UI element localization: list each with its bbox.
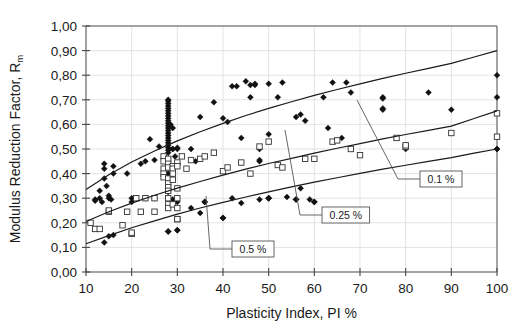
y-tick-label: 0,10 [51, 240, 77, 255]
data-point-diamond [320, 94, 326, 100]
y-tick-label: 0,90 [51, 44, 77, 59]
x-tick-label: 100 [486, 281, 509, 296]
y-tick-label: 0,70 [51, 93, 77, 108]
data-point-diamond [238, 135, 244, 141]
data-point-diamond [101, 161, 107, 167]
callout-label: 0.1 % [428, 173, 455, 185]
trend-curves-group [86, 51, 497, 244]
data-point-square [357, 152, 362, 157]
data-point-diamond [343, 80, 349, 86]
data-point-square [97, 226, 102, 231]
callout-leader-line [357, 100, 420, 179]
data-point-square [225, 165, 230, 170]
data-point-diamond [165, 228, 171, 234]
data-point-diamond [152, 157, 158, 163]
y-tick-label: 0,20 [51, 216, 77, 231]
data-point-diamond [293, 196, 299, 202]
data-point-diamond [147, 136, 153, 142]
data-point-square [175, 205, 180, 210]
x-tick-label: 60 [307, 281, 322, 296]
data-point-square [179, 154, 184, 159]
data-point-diamond [330, 80, 336, 86]
data-point-diamond [298, 185, 304, 191]
data-point-square [280, 165, 285, 170]
data-point-diamond [124, 171, 130, 177]
data-point-square [184, 166, 189, 171]
data-points-group [88, 72, 500, 245]
data-point-diamond [448, 107, 454, 113]
x-tick-label: 70 [352, 281, 367, 296]
x-tick-label: 40 [215, 281, 230, 296]
data-point-diamond [211, 99, 217, 105]
data-point-diamond [247, 94, 253, 100]
data-point-diamond [104, 183, 110, 189]
x-tick-label: 30 [170, 281, 185, 296]
data-point-diamond [234, 83, 240, 89]
data-point-square [403, 143, 408, 148]
data-point-square [211, 150, 216, 155]
data-point-square [202, 154, 207, 159]
data-point-square [348, 146, 353, 151]
data-point-square [188, 157, 193, 162]
data-point-square [124, 209, 129, 214]
data-point-square [170, 171, 175, 176]
x-tick-label: 80 [398, 281, 413, 296]
data-point-diamond [257, 196, 263, 202]
data-point-diamond [220, 215, 226, 221]
data-point-diamond [188, 146, 194, 152]
data-point-square [170, 177, 175, 182]
y-tick-label: 0,50 [51, 142, 77, 157]
data-point-diamond [238, 200, 244, 206]
data-point-square [138, 209, 143, 214]
data-point-diamond [110, 163, 116, 169]
data-point-diamond [243, 78, 249, 84]
y-tick-labels: 0,000,100,200,300,400,500,600,700,800,90… [51, 19, 77, 280]
data-point-diamond [97, 188, 103, 194]
x-tick-label: 90 [444, 281, 459, 296]
x-tick-label: 20 [124, 281, 139, 296]
data-point-square [166, 196, 171, 201]
data-point-diamond [266, 195, 272, 201]
y-tick-label: 0,40 [51, 167, 77, 182]
x-tick-label: 10 [78, 281, 93, 296]
data-point-diamond [348, 89, 354, 95]
data-point-diamond [266, 81, 272, 87]
data-point-diamond [266, 131, 272, 137]
data-point-diamond [325, 125, 331, 131]
data-point-diamond [426, 89, 432, 95]
data-point-diamond [220, 115, 226, 121]
callout-label: 0.25 % [329, 209, 362, 221]
data-point-square [303, 156, 308, 161]
data-point-square [494, 134, 499, 139]
data-point-square [239, 160, 244, 165]
y-axis-title-text: Modulus Reduction Factor, Rm [7, 55, 25, 244]
data-point-square [129, 230, 134, 235]
data-point-diamond [284, 194, 290, 200]
data-point-diamond [279, 80, 285, 86]
data-point-square [257, 144, 262, 149]
data-point-diamond [197, 114, 203, 120]
data-point-square [152, 209, 157, 214]
x-tick-label: 50 [261, 281, 276, 296]
data-point-square [248, 171, 253, 176]
callout-lower: 0.5 % [206, 196, 274, 257]
data-point-diamond [275, 94, 281, 100]
callout-label: 0.5 % [240, 243, 267, 255]
data-point-diamond [494, 94, 500, 100]
x-axis-title-text: Plasticity Index, PI % [226, 305, 357, 321]
data-point-square [334, 138, 339, 143]
y-tick-label: 0,80 [51, 68, 77, 83]
data-point-square [449, 130, 454, 135]
data-point-square [175, 216, 180, 221]
scatter-plot: 102030405060708090100 0,000,100,200,300,… [0, 0, 529, 332]
data-point-diamond [302, 118, 308, 124]
data-point-square [312, 156, 317, 161]
y-axis-title: Modulus Reduction Factor, Rm [7, 55, 25, 244]
y-tick-label: 1,00 [51, 19, 77, 34]
data-point-diamond [197, 210, 203, 216]
x-tick-labels: 102030405060708090100 [78, 281, 508, 296]
data-point-square [175, 164, 180, 169]
y-tick-label: 0,30 [51, 191, 77, 206]
data-point-diamond [174, 227, 180, 233]
y-tick-label: 0,00 [51, 265, 77, 280]
